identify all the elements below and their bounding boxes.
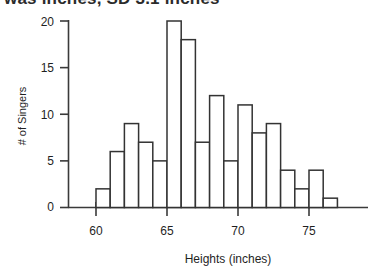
histogram-bar xyxy=(110,152,124,208)
histogram-bar xyxy=(195,142,209,207)
histogram-bar xyxy=(153,161,167,208)
plot-area: # of Singers Heights (inches) 20 15 10 5… xyxy=(0,0,376,274)
histogram-bar xyxy=(181,40,195,208)
histogram-bar xyxy=(252,133,266,208)
histogram-bar xyxy=(124,124,138,208)
histogram-bar xyxy=(139,142,153,207)
histogram-bars-group xyxy=(96,21,337,208)
histogram-bar xyxy=(309,170,323,207)
histogram-bar xyxy=(295,189,309,208)
histogram-bar xyxy=(96,189,110,208)
y-ticks-group xyxy=(60,21,69,208)
histogram-svg xyxy=(0,0,376,274)
histogram-bar xyxy=(266,124,280,208)
histogram-bar xyxy=(281,170,295,207)
histogram-bar xyxy=(238,105,252,208)
histogram-bar xyxy=(210,96,224,208)
histogram-figure: was inches, SD 3.1 inches # of Singers H… xyxy=(0,0,376,274)
histogram-bar xyxy=(167,21,181,208)
histogram-bar xyxy=(323,198,337,207)
histogram-bar xyxy=(224,161,238,208)
